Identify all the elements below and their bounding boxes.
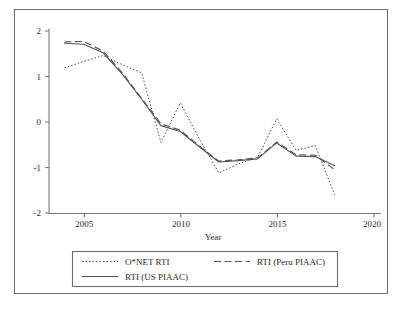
y-tick-label-2: 2 <box>37 26 42 36</box>
series-path-rti-peru-piaac <box>64 41 334 169</box>
series-path-rti-us-piaac <box>64 43 334 165</box>
x-axis-title: Year <box>205 232 222 242</box>
x-axis-ticks <box>84 214 374 218</box>
y-tick-label-1: 1 <box>37 72 42 82</box>
y-tick-label-neg1: -1 <box>34 163 42 173</box>
legend-label-rti-peru-piaac: RTI (Peru PIAAC) <box>257 257 325 267</box>
y-tick-label-0: 0 <box>37 117 42 127</box>
legend-label-rti-us-piaac: RTI (US PIAAC) <box>125 272 188 282</box>
y-axis-tick-labels: 2 1 0 -1 -2 <box>34 26 42 218</box>
line-chart: 2 1 0 -1 -2 2005 2010 2015 2020 Year <box>0 0 410 310</box>
x-tick-label-2005: 2005 <box>75 219 94 229</box>
y-tick-label-neg2: -2 <box>34 208 42 218</box>
y-axis-ticks <box>45 31 49 213</box>
chart-figure: 2 1 0 -1 -2 2005 2010 2015 2020 Year <box>0 0 410 310</box>
x-tick-label-2010: 2010 <box>172 219 191 229</box>
series-path-onet-rti <box>64 56 334 195</box>
x-axis-tick-labels: 2005 2010 2015 2020 <box>75 219 381 229</box>
chart-legend: O*NET RTI RTI (Peru PIAAC) RTI (US PIAAC… <box>73 252 338 287</box>
x-tick-label-2020: 2020 <box>363 219 382 229</box>
legend-label-onet-rti: O*NET RTI <box>125 257 170 267</box>
x-tick-label-2015: 2015 <box>268 219 287 229</box>
